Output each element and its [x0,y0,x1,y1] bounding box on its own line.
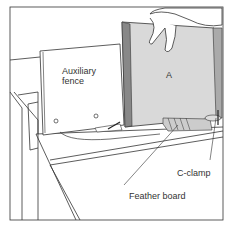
c-clamp-label: C-clamp [177,168,211,178]
saw-illustration [0,0,228,227]
feather-board-leader [124,125,178,185]
auxiliary-fence-label: Auxiliary fence [62,66,96,86]
feather-board [163,118,212,131]
feather-board-label: Feather board [129,191,186,201]
label-line: fence [62,76,96,86]
diagram-frame: Auxiliary fence A C-clamp Feather board [0,0,228,227]
label-line: Auxiliary [62,66,96,76]
workpiece-label: A [166,70,172,80]
